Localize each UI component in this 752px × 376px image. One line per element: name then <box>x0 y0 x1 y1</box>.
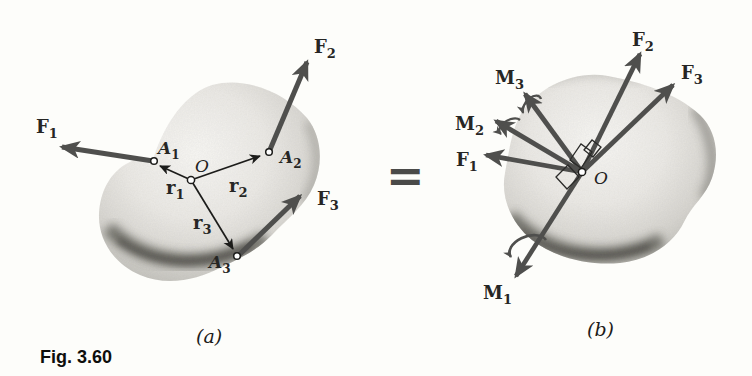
label-f2-b: F2 <box>632 29 654 54</box>
point-a3 <box>234 253 241 260</box>
label-f2-a: F2 <box>314 36 336 61</box>
label-m3: M3 <box>495 67 524 92</box>
point-a2 <box>266 149 273 156</box>
force-f1-arrow-a <box>62 147 153 161</box>
label-f3-b: F3 <box>681 62 703 87</box>
figure-canvas: F1 F2 F3 A1 A2 A3 O r1 r2 r3 (a) = <box>0 0 752 376</box>
equals-sign: = <box>386 149 425 203</box>
point-o-a <box>187 176 194 183</box>
point-a1 <box>151 158 158 165</box>
rigid-body-b-shading <box>495 62 730 277</box>
figure-caption: Fig. 3.60 <box>40 347 112 367</box>
textbook-figure: F1 F2 F3 A1 A2 A3 O r1 r2 r3 (a) = <box>0 0 752 376</box>
panel-a-tag: (a) <box>196 325 222 347</box>
label-f1-a: F1 <box>36 116 58 141</box>
label-m2: M2 <box>455 113 484 138</box>
point-o-b <box>578 168 585 175</box>
panel-b: F1 M2 M3 F2 F3 M1 O (b) <box>455 29 730 340</box>
panel-a: F1 F2 F3 A1 A2 A3 O r1 r2 r3 (a) <box>36 36 339 347</box>
label-origin-b: O <box>594 168 608 188</box>
label-f3-a: F3 <box>317 188 339 213</box>
label-m1: M1 <box>483 282 512 307</box>
label-origin-a: O <box>195 156 209 176</box>
label-f1-b: F1 <box>456 149 478 174</box>
panel-b-tag: (b) <box>587 318 614 340</box>
